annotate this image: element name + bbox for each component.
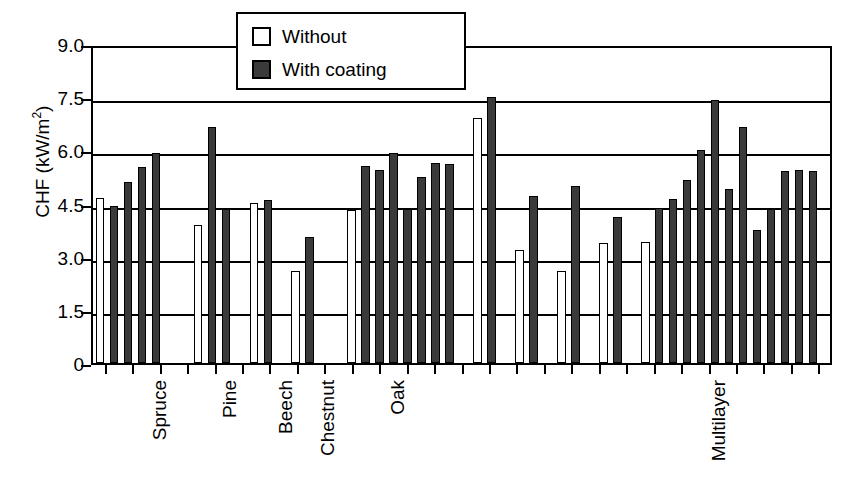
x-tick-mark bbox=[709, 365, 711, 374]
x-tick-mark bbox=[626, 365, 628, 374]
bar bbox=[753, 230, 762, 363]
bar bbox=[529, 196, 538, 363]
y-tick-mark bbox=[81, 312, 91, 314]
bar bbox=[599, 243, 608, 364]
bar bbox=[445, 164, 454, 363]
y-tick-mark bbox=[81, 206, 91, 208]
gridline bbox=[93, 261, 830, 263]
bar bbox=[194, 225, 203, 363]
x-tick-mark bbox=[215, 365, 217, 374]
x-axis-group-label: Beech bbox=[275, 380, 297, 434]
bar bbox=[222, 209, 231, 363]
bar bbox=[152, 153, 161, 363]
legend-item-without: Without bbox=[252, 20, 464, 53]
x-tick-mark bbox=[489, 365, 491, 374]
x-tick-mark bbox=[736, 365, 738, 374]
x-axis-group-label: Chestnut bbox=[317, 380, 339, 456]
y-tick-mark bbox=[81, 46, 91, 48]
x-axis-group-label: Multilayer bbox=[708, 380, 730, 461]
legend-swatch-without-icon bbox=[252, 27, 271, 46]
x-tick-mark bbox=[516, 365, 518, 374]
x-tick-mark bbox=[654, 365, 656, 374]
bar bbox=[347, 210, 356, 363]
x-tick-mark bbox=[462, 365, 464, 374]
y-tick-mark bbox=[81, 259, 91, 261]
y-tick-mark bbox=[81, 99, 91, 101]
x-tick-mark bbox=[379, 365, 381, 374]
legend-item-with-coating: With coating bbox=[252, 53, 464, 86]
bar bbox=[208, 127, 217, 363]
x-tick-mark bbox=[187, 365, 189, 374]
x-tick-mark bbox=[434, 365, 436, 374]
legend-swatch-with-coating-icon bbox=[252, 60, 271, 79]
bar bbox=[487, 97, 496, 363]
bar bbox=[557, 271, 566, 363]
bar bbox=[138, 167, 147, 363]
y-tick-label: 1.5 bbox=[24, 301, 84, 323]
chart-container: CHF (kW/m2) 9.07.56.04.53.01.50 SprucePi… bbox=[0, 0, 864, 485]
y-axis-title-exponent: 2 bbox=[30, 112, 44, 119]
x-tick-mark bbox=[105, 365, 107, 374]
legend-label-with-coating: With coating bbox=[282, 60, 387, 79]
y-tick-label: 7.5 bbox=[24, 88, 84, 110]
bar bbox=[305, 237, 314, 363]
bar bbox=[767, 209, 776, 363]
bar bbox=[375, 170, 384, 363]
gridline bbox=[93, 101, 830, 103]
bar bbox=[795, 170, 804, 363]
x-tick-mark bbox=[352, 365, 354, 374]
y-tick-label: 3.0 bbox=[24, 248, 84, 270]
bar bbox=[655, 208, 664, 363]
y-tick-label: 9.0 bbox=[24, 35, 84, 57]
bar bbox=[683, 180, 692, 363]
y-tick-mark bbox=[81, 365, 91, 367]
bar bbox=[110, 206, 119, 363]
bar bbox=[291, 271, 300, 363]
x-tick-mark bbox=[324, 365, 326, 374]
x-axis-group-label: Oak bbox=[387, 380, 409, 415]
bar bbox=[264, 200, 273, 363]
x-axis-group-label: Spruce bbox=[149, 380, 171, 440]
bar bbox=[473, 118, 482, 363]
bar bbox=[809, 171, 818, 363]
bar bbox=[389, 153, 398, 363]
bar bbox=[711, 100, 720, 363]
x-tick-mark bbox=[544, 365, 546, 374]
x-tick-mark bbox=[763, 365, 765, 374]
bar bbox=[124, 182, 133, 363]
y-tick-label: 6.0 bbox=[24, 141, 84, 163]
bar bbox=[613, 217, 622, 363]
x-tick-mark bbox=[571, 365, 573, 374]
bar bbox=[725, 189, 734, 363]
legend-label-without: Without bbox=[282, 27, 346, 46]
x-tick-mark bbox=[269, 365, 271, 374]
x-tick-mark bbox=[297, 365, 299, 374]
bar bbox=[96, 198, 105, 363]
plot-area bbox=[91, 46, 832, 365]
gridline bbox=[93, 208, 830, 210]
x-tick-mark bbox=[791, 365, 793, 374]
bar bbox=[571, 186, 580, 363]
bar bbox=[417, 177, 426, 363]
x-tick-mark bbox=[132, 365, 134, 374]
bar bbox=[361, 166, 370, 363]
bar bbox=[515, 250, 524, 363]
bar bbox=[431, 163, 440, 363]
gridline bbox=[93, 154, 830, 156]
bar bbox=[403, 209, 412, 363]
x-tick-mark bbox=[407, 365, 409, 374]
chart-legend: Without With coating bbox=[236, 12, 466, 90]
x-axis-group-label: Pine bbox=[219, 380, 241, 418]
bar bbox=[739, 127, 748, 363]
x-tick-mark bbox=[242, 365, 244, 374]
bar bbox=[697, 150, 706, 363]
y-tick-label: 0 bbox=[24, 354, 84, 376]
y-tick-label: 4.5 bbox=[24, 195, 84, 217]
x-tick-mark bbox=[599, 365, 601, 374]
bar bbox=[781, 171, 790, 363]
x-tick-mark bbox=[160, 365, 162, 374]
y-tick-mark bbox=[81, 152, 91, 154]
bar bbox=[669, 199, 678, 363]
bar bbox=[250, 203, 259, 363]
x-tick-mark bbox=[681, 365, 683, 374]
